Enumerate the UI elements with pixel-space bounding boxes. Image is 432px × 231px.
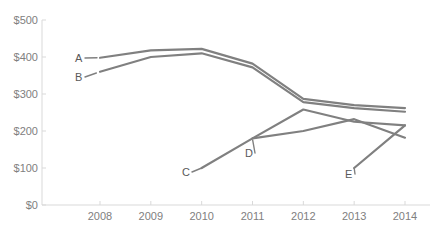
series-line-c: [202, 110, 405, 168]
leader-line-d: [253, 140, 255, 153]
y-tick-marks: [42, 20, 46, 205]
series-line-e: [354, 125, 405, 168]
series-label-c: C: [182, 167, 190, 178]
series-label-b: B: [75, 72, 82, 83]
series-line-b: [100, 53, 405, 111]
series-label-a: A: [75, 53, 82, 64]
series-label-e: E: [345, 169, 352, 180]
series-line-d: [253, 119, 406, 138]
x-tick-marks: [100, 201, 405, 205]
leader-line-c: [192, 168, 202, 172]
leader-line-b: [85, 73, 96, 77]
plot-area: [0, 0, 432, 231]
line-chart: $500$400$300$200$100$0 20082009201020112…: [0, 0, 432, 231]
axis-lines: [42, 20, 430, 205]
series-label-d: D: [245, 148, 253, 159]
leader-line-e: [354, 168, 355, 174]
